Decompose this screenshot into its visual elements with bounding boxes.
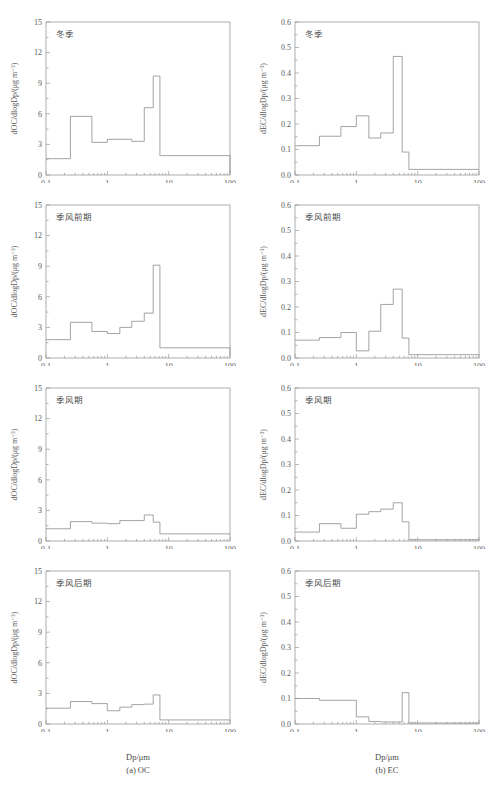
season-label: 季风后期 [56,578,92,588]
y-axis-title: dOC/dlogDp/(μg m⁻³) [10,428,19,500]
caption-oc: (a) OC [46,765,230,775]
y-tick-label: 3 [38,323,42,332]
season-label: 季风期 [305,395,332,405]
data-series-step [295,56,479,169]
chart-ec-pre-monsoon: 0.00.10.20.30.40.50.60.1110100季风前期dEC/dl… [249,183,498,366]
data-series-step [46,265,230,355]
y-tick-label: 0.3 [281,460,291,469]
y-axis-title: dOC/dlogDp/(μg m⁻³) [10,245,19,317]
data-series-step [295,693,479,723]
y-tick-label: 12 [34,414,42,423]
y-tick-label: 0.1 [281,145,291,154]
y-tick-label: 0.6 [281,18,291,27]
y-tick-label: 0.6 [281,384,291,393]
caption-ec: (b) EC [295,765,479,775]
x-tick-label: 1 [105,728,109,732]
y-tick-label: 0.3 [281,643,291,652]
chart-oc-pre-monsoon: 036912150.1110100季风前期dOC/dlogDp/(μg m⁻³) [0,183,249,366]
y-tick-label: 0.3 [281,94,291,103]
y-tick-label: 0.2 [281,120,291,129]
y-tick-label: 0.2 [281,486,291,495]
y-axis-title: dEC/dlogDp/(μg m⁻³) [259,246,268,317]
data-series-step [46,76,230,173]
chart-oc-post-monsoon: 036912150.1110100季风后期dOC/dlogDp/(μg m⁻³) [0,549,249,732]
y-tick-label: 0.4 [281,618,291,627]
y-tick-label: 6 [38,476,42,485]
data-series-step [46,695,230,721]
y-axis-title: dOC/dlogDp/(μg m⁻³) [10,611,19,683]
x-tick-label: 0.1 [41,728,51,732]
y-axis-title: dEC/dlogDp/(μg m⁻³) [259,429,268,500]
y-tick-label: 9 [38,628,42,637]
y-axis-title: dEC/dlogDp/(μg m⁻³) [259,612,268,683]
y-tick-label: 0.5 [281,592,291,601]
figure-root: 036912150.1110100冬季dOC/dlogDp/(μg m⁻³) 0… [0,0,498,791]
chart-oc-monsoon: 036912150.1110100季风期dOC/dlogDp/(μg m⁻³) [0,366,249,549]
chart-ec-winter: 0.00.10.20.30.40.50.60.1110100冬季dEC/dlog… [249,0,498,183]
xlabel-left: Dp/μm [46,752,230,762]
x-tick-label: 100 [473,728,485,732]
x-tick-label: 1 [354,728,358,732]
panel-oc-pre-monsoon: 036912150.1110100季风前期dOC/dlogDp/(μg m⁻³) [0,183,249,366]
y-tick-label: 0.2 [281,669,291,678]
y-tick-label: 15 [34,18,42,27]
data-series-step [46,515,230,535]
panel-ec-monsoon: 0.00.10.20.30.40.50.60.1110100季风期dEC/dlo… [249,366,498,549]
y-tick-label: 12 [34,597,42,606]
panel-oc-monsoon: 036912150.1110100季风期dOC/dlogDp/(μg m⁻³) [0,366,249,549]
y-tick-label: 0.6 [281,567,291,576]
panel-oc-winter: 036912150.1110100冬季dOC/dlogDp/(μg m⁻³) [0,0,249,183]
y-tick-label: 6 [38,110,42,119]
y-tick-label: 15 [34,201,42,210]
season-label: 季风后期 [305,578,341,588]
x-tick-label: 100 [224,728,236,732]
chart-ec-monsoon: 0.00.10.20.30.40.50.60.1110100季风期dEC/dlo… [249,366,498,549]
x-tick-label: 10 [414,728,422,732]
y-tick-label: 0.5 [281,43,291,52]
y-axis-title: dEC/dlogDp/(μg m⁻³) [259,63,268,134]
season-label: 季风前期 [305,212,341,222]
panel-oc-post-monsoon: 036912150.1110100季风后期dOC/dlogDp/(μg m⁻³) [0,549,249,732]
season-label: 季风期 [56,395,83,405]
y-tick-label: 0.5 [281,226,291,235]
y-tick-label: 6 [38,659,42,668]
season-label: 季风前期 [56,212,92,222]
y-tick-label: 0.1 [281,694,291,703]
season-label: 冬季 [56,29,74,39]
y-tick-label: 15 [34,384,42,393]
data-series-step [295,503,479,540]
y-tick-label: 3 [38,506,42,515]
chart-ec-post-monsoon: 0.00.10.20.30.40.50.60.1110100季风后期dEC/dl… [249,549,498,732]
xlabel-right: Dp/μm [295,752,479,762]
y-tick-label: 12 [34,231,42,240]
y-tick-label: 0.4 [281,252,291,261]
y-axis-title: dOC/dlogDp/(μg m⁻³) [10,62,19,134]
season-label: 冬季 [305,29,323,39]
y-tick-label: 9 [38,445,42,454]
y-tick-label: 0.4 [281,69,291,78]
y-tick-label: 6 [38,293,42,302]
y-tick-label: 0.4 [281,435,291,444]
y-tick-label: 9 [38,79,42,88]
x-tick-label: 10 [165,728,173,732]
y-tick-label: 0.2 [281,303,291,312]
y-tick-label: 0.3 [281,277,291,286]
y-tick-label: 3 [38,689,42,698]
y-tick-label: 3 [38,140,42,149]
panel-ec-pre-monsoon: 0.00.10.20.30.40.50.60.1110100季风前期dEC/dl… [249,183,498,366]
y-tick-label: 9 [38,262,42,271]
y-tick-label: 0.1 [281,511,291,520]
panel-ec-post-monsoon: 0.00.10.20.30.40.50.60.1110100季风后期dEC/dl… [249,549,498,732]
data-series-step [295,289,479,355]
y-tick-label: 0.5 [281,409,291,418]
chart-oc-winter: 036912150.1110100冬季dOC/dlogDp/(μg m⁻³) [0,0,249,183]
y-tick-label: 0.6 [281,201,291,210]
y-tick-label: 15 [34,567,42,576]
x-tick-label: 0.1 [290,728,300,732]
y-tick-label: 12 [34,48,42,57]
y-tick-label: 0.1 [281,328,291,337]
panel-ec-winter: 0.00.10.20.30.40.50.60.1110100冬季dEC/dlog… [249,0,498,183]
